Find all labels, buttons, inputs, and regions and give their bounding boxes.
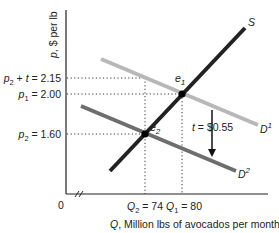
d2-label: D2 bbox=[238, 166, 251, 180]
y-axis-label: p, $ per lb bbox=[47, 11, 59, 59]
supply-curve-s bbox=[110, 28, 245, 171]
x-axis-label: Q, Million lbs of avocados per month bbox=[110, 218, 279, 230]
d1-label: D1 bbox=[260, 121, 272, 135]
guide-lines bbox=[67, 78, 182, 194]
e1-label: e1 bbox=[175, 72, 185, 87]
supply-demand-tax-chart: S D1 D2 e1 e2 t = $0.55 p2 + t = 2.15 p1… bbox=[0, 0, 279, 233]
y-tick-p1: p1 = 2.00 bbox=[18, 88, 62, 103]
y-tick-p2: p2 = 1.60 bbox=[18, 128, 62, 143]
x-tick-q1: Q1 = 80 bbox=[166, 200, 202, 215]
x-tick-q2: Q2 = 74 bbox=[127, 200, 163, 215]
supply-label: S bbox=[248, 16, 255, 28]
y-tick-p2-plus-t: p2 + t = 2.15 bbox=[3, 72, 61, 87]
equilibrium-point-e1 bbox=[178, 90, 185, 97]
origin-label: 0 bbox=[58, 199, 64, 211]
tax-label: t = $0.55 bbox=[192, 121, 233, 133]
tax-arrow-icon bbox=[208, 110, 216, 157]
equilibrium-point-e2 bbox=[141, 130, 148, 137]
